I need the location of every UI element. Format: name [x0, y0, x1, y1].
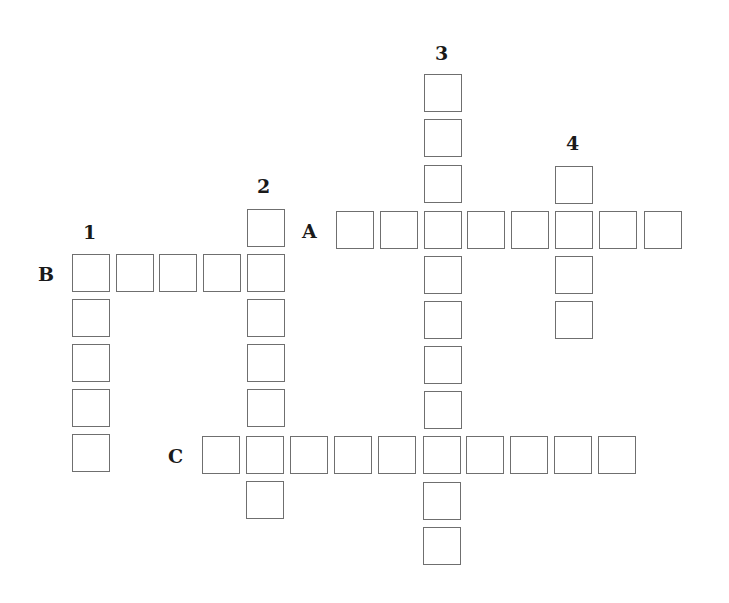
crossword-cell[interactable]: [555, 256, 593, 294]
crossword-cell[interactable]: [247, 299, 285, 337]
crossword-cell[interactable]: [423, 527, 461, 565]
crossword-grid: 1234ABC: [0, 0, 729, 603]
crossword-cell[interactable]: [247, 344, 285, 382]
crossword-cell[interactable]: [424, 119, 462, 157]
crossword-cell[interactable]: [247, 389, 285, 427]
crossword-cell[interactable]: [555, 166, 593, 204]
crossword-cell[interactable]: [159, 254, 197, 292]
crossword-cell[interactable]: [246, 481, 284, 519]
crossword-cell[interactable]: [202, 436, 240, 474]
crossword-cell[interactable]: [247, 209, 285, 247]
crossword-cell[interactable]: [72, 299, 110, 337]
crossword-cell[interactable]: [72, 434, 110, 472]
crossword-cell[interactable]: [72, 254, 110, 292]
crossword-cell[interactable]: [424, 165, 462, 203]
crossword-cell[interactable]: [72, 344, 110, 382]
crossword-cell[interactable]: [510, 436, 548, 474]
crossword-cell[interactable]: [424, 256, 462, 294]
crossword-cell[interactable]: [203, 254, 241, 292]
crossword-cell[interactable]: [334, 436, 372, 474]
crossword-cell[interactable]: [424, 74, 462, 112]
crossword-cell[interactable]: [598, 436, 636, 474]
crossword-cell[interactable]: [247, 254, 285, 292]
crossword-cell[interactable]: [246, 436, 284, 474]
clue-label-3: 3: [435, 44, 448, 63]
crossword-cell[interactable]: [290, 436, 328, 474]
crossword-cell[interactable]: [336, 211, 374, 249]
crossword-cell[interactable]: [599, 211, 637, 249]
crossword-cell[interactable]: [555, 211, 593, 249]
crossword-cell[interactable]: [424, 346, 462, 384]
crossword-cell[interactable]: [423, 436, 461, 474]
crossword-cell[interactable]: [378, 436, 416, 474]
clue-label-a: A: [302, 222, 317, 241]
clue-label-c: C: [168, 447, 183, 466]
crossword-cell[interactable]: [380, 211, 418, 249]
crossword-cell[interactable]: [511, 211, 549, 249]
crossword-cell[interactable]: [424, 391, 462, 429]
clue-label-4: 4: [566, 134, 579, 153]
crossword-cell[interactable]: [554, 436, 592, 474]
crossword-cell[interactable]: [72, 389, 110, 427]
clue-label-1: 1: [83, 223, 96, 242]
clue-label-2: 2: [257, 177, 270, 196]
crossword-cell[interactable]: [467, 211, 505, 249]
crossword-cell[interactable]: [116, 254, 154, 292]
crossword-cell[interactable]: [424, 211, 462, 249]
crossword-cell[interactable]: [424, 301, 462, 339]
crossword-cell[interactable]: [466, 436, 504, 474]
clue-label-b: B: [38, 265, 54, 284]
crossword-cell[interactable]: [423, 482, 461, 520]
crossword-cell[interactable]: [555, 301, 593, 339]
crossword-cell[interactable]: [644, 211, 682, 249]
